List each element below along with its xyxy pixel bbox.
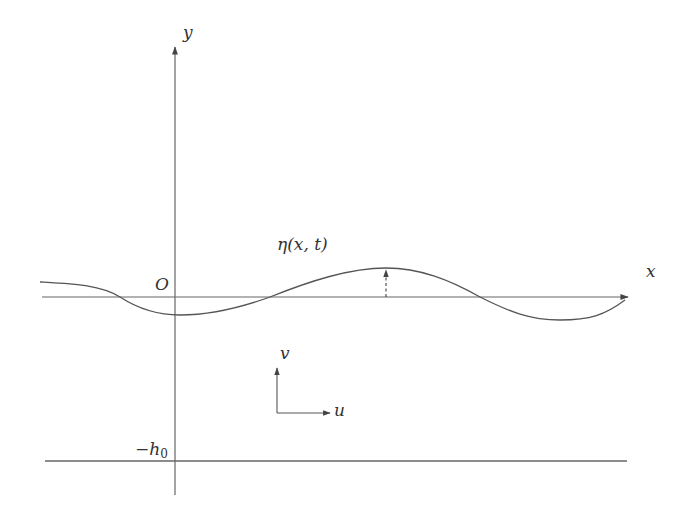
x-axis-label: x — [646, 263, 656, 280]
bottom-depth-label: −h0 — [135, 441, 168, 460]
velocity-u-label: u — [334, 402, 345, 419]
y-axis-label: y — [183, 24, 193, 41]
origin-label: O — [155, 276, 169, 293]
free-surface-curve — [40, 268, 625, 320]
velocity-v-label: v — [280, 345, 290, 362]
bottom-depth-subscript: 0 — [160, 447, 168, 461]
diagram-canvas — [0, 0, 690, 521]
surface-label: η(x, t) — [277, 236, 328, 253]
bottom-depth-sign: −h — [135, 439, 160, 459]
